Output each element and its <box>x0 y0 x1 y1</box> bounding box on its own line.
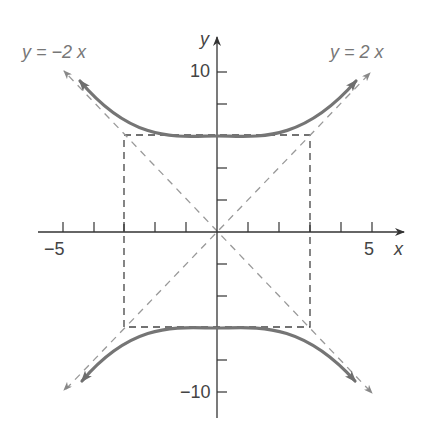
hyperbola-plot <box>0 0 427 423</box>
x-tick-label-5: 5 <box>364 240 374 258</box>
y-tick-label-10: 10 <box>190 62 210 80</box>
y-axis-label: y <box>200 30 209 48</box>
lower-branch-left <box>82 328 217 381</box>
asymptote-y-2x <box>66 73 370 389</box>
asymptote-label-right: y = 2 x <box>330 43 384 61</box>
x-axis-label: x <box>394 240 403 258</box>
asymptote-label-left: y = −2 x <box>22 43 86 61</box>
lower-branch-right <box>217 328 355 381</box>
y-tick-label-neg10: −10 <box>180 383 211 401</box>
upper-branch-right <box>217 81 356 136</box>
hyperbola-branches <box>80 81 356 381</box>
x-tick-label-neg5: −5 <box>44 240 65 258</box>
